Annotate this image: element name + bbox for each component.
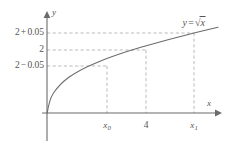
equation-radicand: x (200, 16, 205, 28)
y-tick-label-upper: 2+0.05 (0, 28, 44, 38)
x-axis-arrowhead (215, 110, 222, 117)
x-axis-label: x (207, 99, 211, 108)
x-tick-x1-subscript: 1 (195, 124, 198, 131)
y-tick-label-lower: 2−0.05 (0, 61, 44, 71)
y-tick-lower-delta: 0.05 (27, 60, 44, 70)
y-tick-label-middle: 2 (0, 45, 44, 55)
y-axis-arrowhead (44, 11, 51, 18)
y-tick-upper-base: 2 (15, 27, 20, 37)
x-tick-four-base: 4 (144, 120, 149, 130)
x-tick-label-x0: x0 (103, 121, 110, 131)
x-tick-label-x1: x1 (190, 121, 197, 131)
sqrt-function-figure: y x y=√x 2+0.05 2 2−0.05 x0 4 x1 (0, 0, 228, 144)
horizontal-guide-lines (47, 33, 194, 66)
sqrt-curve (47, 27, 218, 113)
y-axis-label: y (52, 8, 56, 17)
x-tick-x0-subscript: 0 (108, 124, 111, 131)
y-tick-upper-delta: 0.05 (27, 27, 44, 37)
curve-equation-label: y=√x (183, 18, 206, 28)
y-tick-lower-base: 2 (15, 60, 20, 70)
y-tick-middle-base: 2 (39, 44, 44, 54)
x-tick-label-four: 4 (144, 121, 149, 131)
